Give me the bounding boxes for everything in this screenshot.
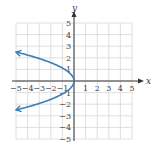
y-tick-label: 2	[66, 54, 71, 63]
x-tick-label: 2	[95, 84, 100, 93]
x-tick-label: −3	[33, 84, 45, 93]
x-tick-label: −4	[22, 84, 34, 93]
x-tick-label: −5	[10, 84, 22, 93]
parabola-chart: −5−4−3−2−11234554321−1−2−3−4−5 x y	[0, 0, 153, 155]
y-tick-label: 4	[66, 31, 71, 40]
axes	[12, 11, 144, 141]
x-tick-label: 4	[118, 84, 123, 93]
x-tick-label: 5	[129, 84, 134, 93]
x-tick-label: 3	[106, 84, 111, 93]
y-axis-label: y	[71, 3, 78, 13]
x-axis-arrow-icon	[138, 79, 144, 84]
y-tick-label: −2	[59, 100, 71, 109]
y-tick-label: 5	[66, 19, 71, 28]
y-tick-label: −3	[59, 112, 71, 121]
y-tick-label: −4	[59, 123, 71, 132]
x-axis-label: x	[146, 76, 151, 86]
x-tick-label: −2	[45, 84, 57, 93]
x-tick-label: 1	[83, 84, 88, 93]
y-tick-label: 3	[66, 42, 71, 51]
y-tick-label: −5	[59, 135, 71, 144]
